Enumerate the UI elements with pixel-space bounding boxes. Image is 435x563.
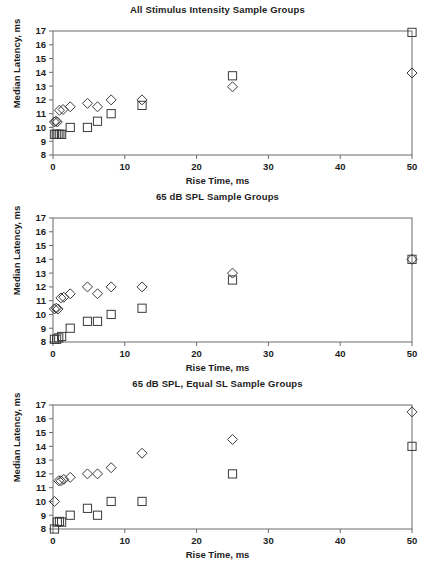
x-tick-label: 50 [407, 161, 418, 172]
x-tick-label: 40 [335, 161, 346, 172]
data-point-diamond [228, 82, 238, 92]
data-point-diamond [93, 102, 103, 112]
x-tick-label: 40 [335, 535, 346, 546]
data-point-square [138, 497, 146, 505]
data-point-square [107, 310, 115, 318]
data-point-square [138, 304, 146, 312]
x-tick-label: 10 [120, 161, 131, 172]
y-tick-label: 16 [35, 413, 46, 424]
data-point-square [107, 497, 115, 505]
panel-2-xlabel: Rise Time, ms [0, 362, 435, 373]
data-point-diamond [106, 95, 116, 105]
y-tick-label: 17 [35, 212, 46, 223]
y-tick-label: 12 [35, 468, 46, 479]
x-tick-label: 30 [263, 535, 274, 546]
x-tick-label: 10 [120, 535, 131, 546]
x-tick-label: 20 [191, 161, 202, 172]
data-point-square [93, 511, 101, 519]
y-tick-label: 11 [36, 295, 47, 306]
y-tick-label: 16 [35, 226, 46, 237]
y-tick-label: 16 [35, 39, 46, 50]
x-tick-label: 40 [335, 348, 346, 359]
y-tick-label: 12 [35, 94, 46, 105]
panel-2-plot: Median Latency, ms 891011121314151617010… [0, 187, 435, 374]
x-tick-label: 0 [50, 348, 55, 359]
panel-3-plot: Median Latency, ms 891011121314151617010… [0, 374, 435, 561]
panel-1-plot: Median Latency, ms 891011121314151617010… [0, 0, 435, 187]
panel-1-xlabel: Rise Time, ms [0, 175, 435, 186]
scatter-figure: All Stimulus Intensity Sample Groups Med… [0, 0, 435, 563]
y-tick-label: 13 [35, 268, 46, 279]
data-point-diamond [82, 282, 92, 292]
data-point-square [83, 123, 91, 131]
data-point-square [83, 317, 91, 325]
data-point-diamond [82, 469, 92, 479]
y-tick-label: 14 [35, 67, 46, 78]
data-point-square [54, 130, 62, 138]
y-tick-label: 9 [41, 510, 46, 521]
y-tick-label: 11 [36, 108, 47, 119]
data-point-diamond [93, 289, 103, 299]
y-tick-label: 10 [35, 309, 46, 320]
x-tick-label: 20 [191, 348, 202, 359]
y-tick-label: 10 [35, 122, 46, 133]
y-tick-label: 12 [35, 281, 46, 292]
x-tick-label: 50 [407, 348, 418, 359]
data-point-diamond [137, 95, 147, 105]
y-tick-label: 8 [41, 149, 46, 160]
data-point-diamond [106, 463, 116, 473]
data-point-diamond [228, 434, 238, 444]
data-point-square [93, 317, 101, 325]
plot-frame [53, 31, 412, 155]
data-point-square [228, 276, 236, 284]
data-point-square [66, 511, 74, 519]
data-point-square [55, 517, 63, 525]
data-point-diamond [137, 282, 147, 292]
plot-frame [53, 218, 412, 342]
x-tick-label: 10 [120, 348, 131, 359]
data-point-square [83, 504, 91, 512]
y-tick-label: 15 [35, 240, 46, 251]
x-tick-label: 20 [191, 535, 202, 546]
data-point-square [228, 72, 236, 80]
y-tick-label: 13 [35, 455, 46, 466]
data-point-diamond [228, 268, 238, 278]
panel-2-svg: 89101112131415161701020304050 [0, 187, 435, 374]
panel-2: 65 dB SPL Sample Groups Median Latency, … [0, 187, 435, 374]
y-tick-label: 15 [35, 53, 46, 64]
panel-1-ylabel: Median Latency, ms [11, 4, 22, 124]
x-tick-label: 0 [50, 535, 55, 546]
y-tick-label: 11 [36, 482, 47, 493]
data-point-diamond [65, 289, 75, 299]
y-tick-label: 14 [35, 254, 46, 265]
x-tick-label: 0 [50, 161, 55, 172]
data-point-square [56, 130, 64, 138]
y-tick-label: 9 [41, 323, 46, 334]
y-tick-label: 17 [35, 25, 46, 36]
y-tick-label: 17 [35, 399, 46, 410]
panel-1-svg: 89101112131415161701020304050 [0, 0, 435, 187]
data-point-square [107, 110, 115, 118]
y-tick-label: 14 [35, 441, 46, 452]
y-tick-label: 8 [41, 523, 46, 534]
data-point-diamond [106, 282, 116, 292]
x-tick-label: 30 [263, 348, 274, 359]
data-point-square [66, 324, 74, 332]
panel-1: All Stimulus Intensity Sample Groups Med… [0, 0, 435, 187]
y-tick-label: 9 [41, 136, 46, 147]
panel-3-svg: 89101112131415161701020304050 [0, 374, 435, 561]
y-tick-label: 8 [41, 336, 46, 347]
x-tick-label: 50 [407, 535, 418, 546]
data-point-diamond [54, 105, 64, 115]
x-tick-label: 30 [263, 161, 274, 172]
data-point-diamond [93, 469, 103, 479]
data-point-square [66, 123, 74, 131]
data-point-diamond [137, 448, 147, 458]
data-point-diamond [82, 98, 92, 108]
y-tick-label: 15 [35, 427, 46, 438]
y-tick-label: 10 [35, 496, 46, 507]
y-tick-label: 13 [35, 81, 46, 92]
data-point-square [228, 470, 236, 478]
panel-3: 65 dB SPL, Equal SL Sample Groups Median… [0, 374, 435, 561]
panel-2-ylabel: Median Latency, ms [11, 191, 22, 311]
